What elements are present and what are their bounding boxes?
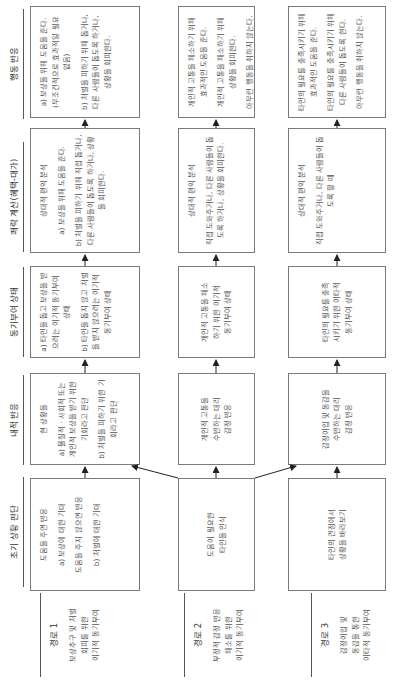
box-text: 타인의 필요를 충족시키기 위해 다른 사람들이 돕도록 한다. bbox=[325, 12, 348, 112]
route-3-calculation-box: 상대적 편익 분석 직접 도와주거나, 다른 사람들이 돕도록 할 때 bbox=[288, 128, 386, 253]
box-text: a) 타인을 돕고 보상을 받으려는 이기적 동기부여 상태 bbox=[38, 272, 73, 352]
box-text: a) 보상을 위해 도움을 준다. (무조건적으로 효과적일 필요 없음) bbox=[38, 12, 73, 112]
route-1-motivation-box: a) 타인을 돕고 보상을 받으려는 이기적 동기부여 상태 b) 타인을 돕지… bbox=[30, 266, 140, 358]
route-1-internal-box: 현 상황을 a) 물질적 · 사회적 또는 개인적 보상을 받기 위한 기회라고… bbox=[30, 373, 140, 465]
box-text: 아무런 행동을 취하지 않는다. bbox=[354, 12, 366, 112]
route-desc-line: 감정이입 및 bbox=[338, 593, 350, 677]
route-desc-line: 이타적 동기부여 bbox=[361, 593, 373, 677]
header-action-response: 행동 반응 bbox=[2, 9, 24, 119]
route-2-motivation-box: 개인적 고통을 해소 하기 위한 이기적 동기부여 상태 bbox=[178, 266, 255, 358]
route-3-action-box: 타인의 필요를 충족시키기 위해 효과적인 도움을 준다. 타인의 필요를 충족… bbox=[288, 6, 386, 118]
box-text: 개인적 고통을 해소 bbox=[199, 272, 211, 352]
route-1-label: 경로 1 보상추구 및 처벌회피를 위한이기적 동기부여 bbox=[40, 593, 102, 677]
box-text: a) 보상을 위해 도움을 준다. bbox=[56, 134, 68, 247]
box-text: 시키기 위한 이타적 bbox=[331, 272, 343, 352]
route-desc-line: 이기적 동기부여 bbox=[234, 593, 246, 677]
route-3-internal-box: 감정이입 및 동감을 수반하는 대리 감정 반응 bbox=[288, 373, 386, 465]
box-text: 동기부여 상태 bbox=[343, 272, 355, 352]
box-text: 타인을 인식 bbox=[217, 484, 229, 585]
box-text: b) 처벌에 대한 기대 bbox=[91, 484, 103, 585]
box-text: 하기 위한 이기적 bbox=[211, 272, 223, 352]
box-text: 상대적 편익 분석 bbox=[296, 134, 308, 247]
header-hedonic-calculation: 쾌락 계산(혜택-대가) bbox=[2, 142, 24, 252]
route-2-calculation-box: 상대적 편익 분석 직접 도와주거나, 다른 사람들이 돕도록 하거나, 상황을… bbox=[178, 128, 255, 253]
box-text: b) 타인을 돕지 않고 처벌을 받지 않으려는 이기적 동기부여 상태 bbox=[79, 272, 114, 352]
route-2-initial-box: 도움이 필요한 타인을 인식 bbox=[178, 478, 255, 591]
route-desc-line: 회피를 위한 bbox=[79, 593, 91, 677]
route-desc-line: 동감을 통한 bbox=[350, 593, 362, 677]
box-text: 상황을 바라보기 bbox=[337, 484, 349, 585]
diagram-stage: 초기 상황 판단 내적 반응 동기부여 상태 쾌락 계산(혜택-대가) 행동 반… bbox=[0, 0, 397, 683]
box-text: 개인적 고통을 해소하기 위해 상황을 회피한다. bbox=[215, 12, 238, 112]
box-text: 아무런 행동을 취하지 않는다. bbox=[244, 12, 256, 112]
route-2-internal-box: 개인적 고통을 수반하는 대리 감정 반응 bbox=[178, 373, 255, 465]
box-text: 수반하는 대리 bbox=[211, 379, 223, 459]
box-text: 도움이 필요한 bbox=[205, 484, 217, 585]
route-desc-line: 이기적 동기부여 bbox=[90, 593, 102, 677]
box-text: 타인의 필요를 충족시키기 위해 효과적인 도움을 준다. bbox=[296, 12, 319, 112]
route-2-title: 경로 2 bbox=[191, 593, 203, 677]
box-text: 상대적 편익 분석 bbox=[186, 134, 198, 247]
box-text: 도움을 주면 반응 bbox=[38, 484, 50, 585]
box-text: 개인적 고통을 bbox=[199, 379, 211, 459]
box-text: 감정 반응 bbox=[222, 379, 234, 459]
box-text: b) 처벌을 피하기 위한 기회라고 판단 bbox=[96, 379, 119, 459]
header-internal-response: 내적 반응 bbox=[2, 375, 24, 465]
box-text: 상대적 편익 분석 bbox=[38, 134, 50, 247]
box-text: 감정 반응 bbox=[343, 379, 355, 459]
route-3-initial-box: 타인의 관점에서 상황을 바라보기 bbox=[288, 478, 386, 591]
route-desc-line: 해소를 위한 bbox=[223, 593, 235, 677]
box-text: 직접 도와주거나, 다른 사람들이 돕도록 하거나, 상황을 회피한다. bbox=[204, 134, 227, 247]
box-text: b) 처벌을 피하기 위해 직접 돕거나, 다른 사람들이 돕도록 하거나, 상… bbox=[73, 134, 108, 247]
route-1-title: 경로 1 bbox=[47, 593, 59, 677]
box-text: a) 보상에 대한 기대 bbox=[56, 484, 68, 585]
header-motivation-state: 동기부여 상태 bbox=[2, 267, 24, 357]
box-text: 타인의 관점에서 bbox=[326, 484, 338, 585]
route-3-title: 경로 3 bbox=[318, 593, 330, 677]
box-text: 동기부여 상태 bbox=[222, 272, 234, 352]
route-2-action-box: 개인적 고통을 해소하기 위해 효과적인 도움을 준다. 개인적 고통을 해소하… bbox=[178, 6, 255, 118]
box-text: 수반하는 대리 bbox=[331, 379, 343, 459]
box-text: b) 처벌을 피하기 위해 돕거나, 다른 사람들이 돕도록 하거나, 상황을 … bbox=[79, 12, 114, 112]
route-desc-line: 보상추구 및 처벌 bbox=[67, 593, 79, 677]
route-desc-line: 부정적 감정 반응 bbox=[211, 593, 223, 677]
route-2-label: 경로 2 부정적 감정 반응해소를 위한이기적 동기부여 bbox=[184, 593, 246, 677]
route-1-calculation-box: 상대적 편익 분석 a) 보상을 위해 도움을 준다. b) 처벌을 피하기 위… bbox=[30, 128, 140, 253]
box-text: 도움을 주지 않으면 반응 bbox=[73, 484, 85, 585]
route-1-action-box: a) 보상을 위해 도움을 준다. (무조건적으로 효과적일 필요 없음) b)… bbox=[30, 6, 140, 118]
box-text: 개인적 고통을 해소하기 위해 효과적인 도움을 준다. bbox=[186, 12, 209, 112]
box-text: 타인의 필요를 충족 bbox=[320, 272, 332, 352]
route-3-motivation-box: 타인의 필요를 충족 시키기 위한 이타적 동기부여 상태 bbox=[288, 266, 386, 358]
box-text: 직접 도와주거나, 다른 사람들이 돕도록 할 때 bbox=[314, 134, 337, 247]
box-text: 감정이입 및 동감을 bbox=[320, 379, 332, 459]
box-text: 현 상황을 bbox=[38, 379, 50, 459]
route-3-label: 경로 3 감정이입 및동감을 통한이타적 동기부여 bbox=[311, 593, 373, 677]
header-initial-judgment: 초기 상황 판단 bbox=[2, 477, 24, 587]
route-1-initial-box: 도움을 주면 반응 a) 보상에 대한 기대 도움을 주지 않으면 반응 b) … bbox=[30, 478, 140, 591]
box-text: a) 물질적 · 사회적 또는 개인적 보상을 받기 위한 기회라고 판단 bbox=[56, 379, 91, 459]
